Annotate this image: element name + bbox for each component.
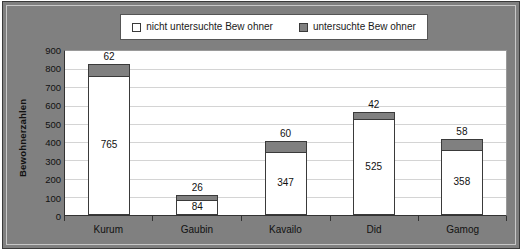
bar-segment-nicht-untersuchte-gamog[interactable]: 358 bbox=[441, 150, 483, 215]
x-tick-2 bbox=[241, 216, 242, 221]
y-tick-800: 800 bbox=[45, 63, 61, 74]
bar-slot-gaubin: 26 84 bbox=[153, 51, 241, 215]
white-square-icon bbox=[132, 23, 141, 32]
x-tick-4 bbox=[418, 216, 419, 221]
bar-bottom-value-gamog: 358 bbox=[454, 177, 471, 187]
bar-stack-gaubin[interactable]: 26 84 bbox=[176, 195, 218, 215]
x-axis-labels: Kurum Gaubin Kavailo Did Gamog bbox=[64, 222, 507, 238]
plot-area: 62 765 26 84 bbox=[64, 50, 507, 216]
x-tick-0 bbox=[64, 216, 65, 221]
bar-bottom-value-kurum: 765 bbox=[101, 140, 118, 150]
bar-bottom-value-gaubin: 84 bbox=[192, 202, 203, 212]
bar-top-value-gamog: 58 bbox=[456, 127, 467, 137]
x-label-gamog: Gamog bbox=[418, 222, 507, 238]
bar-slot-gamog: 58 358 bbox=[418, 51, 506, 215]
legend-label-nicht-untersuchte: nicht untersuchte Bew ohner bbox=[146, 22, 273, 32]
chart-canvas: nicht untersuchte Bew ohner untersuchte … bbox=[6, 5, 516, 245]
bar-top-value-did: 42 bbox=[368, 100, 379, 110]
bar-segment-untersuchte-kavailo[interactable] bbox=[265, 141, 307, 152]
chart-legend: nicht untersuchte Bew ohner untersuchte … bbox=[120, 14, 428, 40]
y-tick-200: 200 bbox=[45, 174, 61, 185]
y-tick-0: 0 bbox=[56, 211, 61, 222]
bar-slot-did: 42 525 bbox=[330, 51, 418, 215]
y-tick-600: 600 bbox=[45, 100, 61, 111]
x-tick-3 bbox=[330, 216, 331, 221]
x-label-kurum: Kurum bbox=[64, 222, 153, 238]
bar-top-value-kavailo: 60 bbox=[280, 129, 291, 139]
legend-item-untersuchte[interactable]: untersuchte Bew ohner bbox=[299, 22, 416, 32]
y-tick-900: 900 bbox=[45, 45, 61, 56]
x-tick-5 bbox=[506, 216, 507, 221]
x-tick-1 bbox=[152, 216, 153, 221]
bar-stack-did[interactable]: 42 525 bbox=[353, 112, 395, 215]
bar-top-value-gaubin: 26 bbox=[192, 183, 203, 193]
gray-square-icon bbox=[299, 23, 308, 32]
y-tick-700: 700 bbox=[45, 81, 61, 92]
bar-slot-kurum: 62 765 bbox=[65, 51, 153, 215]
bar-stack-kurum[interactable]: 62 765 bbox=[88, 64, 130, 215]
bars-layer: 62 765 26 84 bbox=[65, 51, 506, 215]
legend-item-nicht-untersuchte[interactable]: nicht untersuchte Bew ohner bbox=[132, 22, 273, 32]
bar-segment-nicht-untersuchte-kavailo[interactable]: 347 bbox=[265, 152, 307, 215]
bar-segment-untersuchte-gamog[interactable] bbox=[441, 139, 483, 150]
y-tick-100: 100 bbox=[45, 192, 61, 203]
x-label-did: Did bbox=[330, 222, 419, 238]
legend-label-untersuchte: untersuchte Bew ohner bbox=[313, 22, 416, 32]
bar-segment-nicht-untersuchte-gaubin[interactable]: 84 bbox=[176, 200, 218, 215]
x-label-gaubin: Gaubin bbox=[153, 222, 242, 238]
bar-stack-kavailo[interactable]: 60 347 bbox=[265, 141, 307, 215]
bar-segment-nicht-untersuchte-kurum[interactable]: 765 bbox=[88, 76, 130, 215]
y-axis-title: Bewohnerzahlen bbox=[15, 68, 29, 208]
bar-bottom-value-did: 525 bbox=[365, 162, 382, 172]
y-tick-500: 500 bbox=[45, 118, 61, 129]
chart-frame: nicht untersuchte Bew ohner untersuchte … bbox=[2, 1, 520, 249]
bar-bottom-value-kavailo: 347 bbox=[277, 178, 294, 188]
x-label-kavailo: Kavailo bbox=[241, 222, 330, 238]
bar-segment-nicht-untersuchte-did[interactable]: 525 bbox=[353, 119, 395, 215]
chart-container: nicht untersuchte Bew ohner untersuchte … bbox=[0, 0, 522, 252]
bar-segment-untersuchte-kurum[interactable] bbox=[88, 64, 130, 75]
y-tick-300: 300 bbox=[45, 155, 61, 166]
y-tick-400: 400 bbox=[45, 137, 61, 148]
bar-top-value-kurum: 62 bbox=[104, 52, 115, 62]
bar-slot-kavailo: 60 347 bbox=[241, 51, 329, 215]
x-axis-ticks bbox=[64, 216, 507, 221]
bar-segment-untersuchte-did[interactable] bbox=[353, 112, 395, 120]
y-axis-tick-labels: 900 800 700 600 500 400 300 200 100 0 bbox=[31, 50, 61, 216]
bar-stack-gamog[interactable]: 58 358 bbox=[441, 139, 483, 215]
